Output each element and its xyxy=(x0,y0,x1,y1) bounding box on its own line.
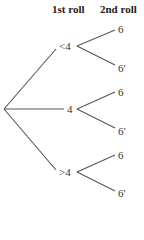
node-eq4: 4 xyxy=(67,103,73,115)
node-lt4-6prime: 6′ xyxy=(118,62,126,74)
branch-root-gt4 xyxy=(4,109,56,170)
branch-eq4-6 xyxy=(77,92,115,109)
branch-lt4-6 xyxy=(77,30,115,46)
branch-lt4-6prime xyxy=(77,46,115,65)
node-gt4-6prime: 6′ xyxy=(118,187,126,199)
branch-root-lt4 xyxy=(4,49,56,109)
node-lt4: <4 xyxy=(59,40,71,52)
node-gt4-6: 6 xyxy=(118,149,124,161)
branch-eq4-6prime xyxy=(77,109,115,128)
node-eq4-6: 6 xyxy=(118,86,124,98)
branch-gt4-6prime xyxy=(77,172,115,191)
node-eq4-6prime: 6′ xyxy=(118,125,126,137)
branch-gt4-6 xyxy=(77,155,115,172)
node-lt4-6: 6 xyxy=(118,23,124,35)
node-gt4: >4 xyxy=(59,166,71,178)
